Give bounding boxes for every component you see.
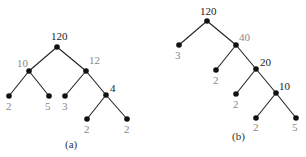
node-label: 4 bbox=[110, 82, 116, 94]
node-label: 120 bbox=[51, 30, 68, 42]
tree-edge bbox=[29, 47, 57, 71]
node-label: 120 bbox=[200, 5, 217, 17]
tree-node bbox=[124, 116, 130, 122]
tree-node bbox=[253, 115, 259, 121]
tree-edge bbox=[106, 95, 127, 119]
node-label: 2 bbox=[213, 74, 219, 86]
node-label: 10 bbox=[279, 80, 291, 92]
factor-tree-a: 1201012253422(a) bbox=[6, 30, 130, 151]
tree-edge bbox=[236, 45, 256, 69]
tree-node bbox=[46, 93, 52, 99]
node-label: 2 bbox=[6, 100, 12, 112]
tree-node bbox=[103, 92, 109, 98]
tree-edge bbox=[87, 95, 106, 119]
node-label: 2 bbox=[124, 123, 130, 135]
tree-caption: (b) bbox=[232, 130, 245, 143]
tree-edge bbox=[216, 45, 236, 70]
node-label: 5 bbox=[292, 121, 298, 133]
tree-node bbox=[253, 66, 259, 72]
tree-edge bbox=[256, 69, 276, 93]
node-label: 12 bbox=[89, 54, 100, 66]
tree-edge bbox=[256, 93, 276, 118]
tree-edge bbox=[29, 71, 49, 96]
factor-trees-diagram: 1201012253422(a) 12034022021025(b) bbox=[0, 0, 306, 157]
tree-node bbox=[233, 91, 239, 97]
tree-node bbox=[84, 116, 90, 122]
node-label: 40 bbox=[239, 31, 251, 43]
node-label: 5 bbox=[45, 100, 51, 112]
tree-node bbox=[176, 42, 182, 48]
node-label: 10 bbox=[17, 57, 29, 69]
node-label: 2 bbox=[84, 123, 90, 135]
tree-edge bbox=[9, 71, 29, 96]
tree-caption: (a) bbox=[65, 138, 78, 151]
tree-node bbox=[54, 44, 60, 50]
tree-node bbox=[213, 67, 219, 73]
tree-edge bbox=[57, 47, 86, 71]
node-label: 2 bbox=[233, 98, 239, 110]
tree-node bbox=[233, 42, 239, 48]
node-label: 20 bbox=[260, 56, 272, 68]
tree-edge bbox=[65, 71, 86, 96]
tree-node bbox=[293, 115, 299, 121]
tree-node bbox=[26, 68, 32, 74]
tree-edge bbox=[207, 21, 236, 45]
tree-edge bbox=[86, 71, 106, 95]
node-label: 3 bbox=[62, 100, 68, 112]
node-label: 2 bbox=[253, 121, 259, 133]
tree-edge bbox=[179, 21, 207, 45]
tree-node bbox=[273, 90, 279, 96]
tree-node bbox=[62, 93, 68, 99]
tree-edge bbox=[236, 69, 256, 94]
factor-tree-b: 12034022021025(b) bbox=[175, 5, 299, 143]
tree-node bbox=[83, 68, 89, 74]
tree-edge bbox=[276, 93, 296, 118]
node-label: 3 bbox=[175, 49, 181, 61]
tree-node bbox=[204, 18, 210, 24]
tree-node bbox=[6, 93, 12, 99]
